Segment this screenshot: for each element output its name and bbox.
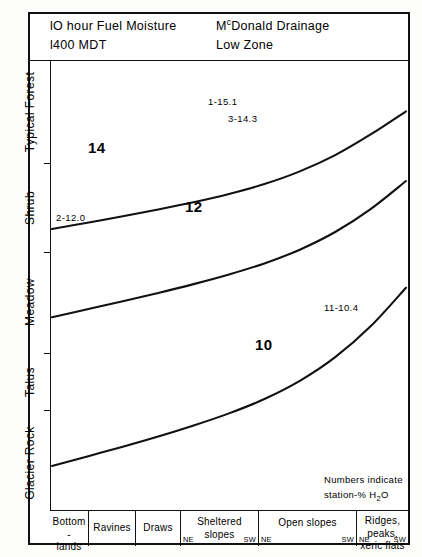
y-axis-label-meadow-text: Meadow bbox=[23, 278, 37, 326]
note-line-2: station-% H2O bbox=[324, 487, 403, 502]
title-line-fuel-moisture: lO hour Fuel Moisture bbox=[50, 17, 176, 36]
title-line-drainage: McDonald Drainage bbox=[216, 17, 330, 36]
y-axis-label-typical-forest-text: Typical Forest bbox=[23, 72, 37, 152]
x-cell-open-slopes-sw: SW bbox=[342, 535, 354, 544]
y-axis-label-shrub-text: Shrub bbox=[23, 191, 37, 225]
x-cell-sheltered-slopes-sw: SW bbox=[244, 535, 256, 544]
note-line-2-post: O bbox=[381, 489, 389, 500]
y-axis-label-glacier-rock-text: Glacier Rock bbox=[23, 426, 37, 499]
station-label-11: 11-10.4 bbox=[324, 302, 358, 313]
station-label-3: 3-14.3 bbox=[228, 113, 257, 124]
x-cell-sheltered-slopes-ne: NE bbox=[183, 535, 194, 544]
curve-label-10: 10 bbox=[255, 336, 273, 353]
title-left-column: lO hour Fuel Moisture l400 MDT bbox=[50, 17, 176, 55]
x-cell-ridges-peaks[interactable]: Ridges, peaks, xeric flats NE SW bbox=[356, 511, 408, 546]
x-cell-ridges-peaks-sw: SW bbox=[394, 535, 406, 544]
title-drainage-pre: M bbox=[216, 19, 227, 33]
x-cell-open-slopes-ne: NE bbox=[261, 535, 272, 544]
curve-10-path bbox=[52, 288, 406, 466]
x-axis-category-band: Bottom - lands Ravines Draws Sheltered s… bbox=[50, 510, 408, 545]
station-label-1: 1-15.1 bbox=[208, 96, 237, 107]
y-axis-label-talus-text: Talus bbox=[23, 367, 37, 397]
title-drainage-post: Donald Drainage bbox=[231, 19, 329, 33]
plot-area bbox=[50, 61, 408, 510]
x-cell-draws-label: Draws bbox=[136, 522, 180, 535]
x-cell-draws[interactable]: Draws bbox=[135, 511, 180, 546]
station-label-2: 2-12.0 bbox=[56, 212, 85, 223]
curve-label-14: 14 bbox=[88, 139, 106, 156]
x-cell-bottomlands[interactable]: Bottom - lands bbox=[50, 511, 88, 546]
x-cell-ridges-peaks-label: Ridges, peaks, xeric flats bbox=[357, 515, 408, 553]
fuel-moisture-figure: lO hour Fuel Moisture l400 MDT McDonald … bbox=[0, 0, 422, 557]
figure-title-band: lO hour Fuel Moisture l400 MDT McDonald … bbox=[28, 12, 410, 61]
x-cell-bottomlands-label: Bottom - lands bbox=[50, 516, 88, 554]
title-line-time: l400 MDT bbox=[50, 36, 176, 55]
x-cell-ravines[interactable]: Ravines bbox=[88, 511, 135, 546]
x-cell-open-slopes[interactable]: Open slopes NE SW bbox=[258, 511, 356, 546]
note-line-2-pre: station-% H bbox=[324, 489, 376, 500]
x-cell-sheltered-slopes[interactable]: Sheltered slopes NE SW bbox=[180, 511, 258, 546]
x-cell-ravines-label: Ravines bbox=[89, 522, 135, 535]
note-line-1: Numbers indicate bbox=[324, 472, 403, 487]
curve-label-12: 12 bbox=[185, 198, 203, 215]
x-cell-open-slopes-label: Open slopes bbox=[259, 517, 356, 530]
curves-svg bbox=[50, 61, 408, 510]
x-cell-ridges-peaks-ne: NE bbox=[359, 535, 370, 544]
title-right-column: McDonald Drainage Low Zone bbox=[216, 17, 330, 55]
curve-14-path bbox=[52, 111, 406, 229]
title-line-zone: Low Zone bbox=[216, 36, 330, 55]
note-block: Numbers indicate station-% H2O bbox=[324, 472, 403, 502]
curve-12-path bbox=[52, 181, 406, 317]
